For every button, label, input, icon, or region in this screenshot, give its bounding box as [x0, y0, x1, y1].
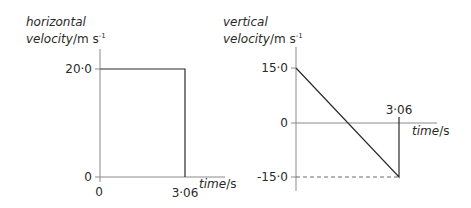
left-ylabel-word: velocity: [26, 32, 74, 46]
right-y-tick-label-15: 15·0: [261, 61, 288, 75]
left-xlabel-unit: /s: [226, 177, 236, 191]
right-y-tick-label-0: 0: [280, 116, 288, 130]
right-xlabel-unit: /s: [439, 124, 449, 138]
left-xlabel-word: time: [199, 177, 226, 191]
left-x-tick-label-306: 3·06: [172, 186, 199, 200]
velocity-time-graphs: horizontal velocity/m s-1 20·0 0 0 3·06 …: [0, 0, 471, 208]
right-xlabel: time/s: [412, 124, 449, 138]
left-x-tick-label-0: 0: [95, 185, 103, 199]
left-ylabel-line2: velocity/m s-1: [26, 32, 106, 46]
right-ylabel-sup: -1: [296, 32, 303, 40]
left-ylabel-unit: /m s: [73, 32, 99, 46]
right-ylabel-line2: velocity/m s-1: [223, 32, 303, 46]
left-xlabel: time/s: [199, 177, 236, 191]
left-ylabel-sup: -1: [99, 32, 106, 40]
right-ylabel-line1: vertical: [223, 15, 268, 29]
left-ylabel-line1: horizontal: [26, 15, 87, 29]
horizontal-velocity-chart: horizontal velocity/m s-1 20·0 0 0 3·06 …: [26, 15, 236, 200]
right-ylabel-word: velocity: [223, 32, 271, 46]
left-y-tick-label-20: 20·0: [65, 62, 92, 76]
left-y-tick-label-0: 0: [84, 170, 92, 184]
horizontal-velocity-line: [100, 69, 185, 177]
vertical-velocity-chart: vertical velocity/m s-1 15·0 0 -15·0 3·0…: [223, 15, 449, 191]
right-x-tick-label-306: 3·06: [386, 103, 413, 117]
right-ylabel-unit: /m s: [270, 32, 296, 46]
right-xlabel-word: time: [412, 124, 439, 138]
right-y-tick-label-minus15: -15·0: [257, 170, 288, 184]
